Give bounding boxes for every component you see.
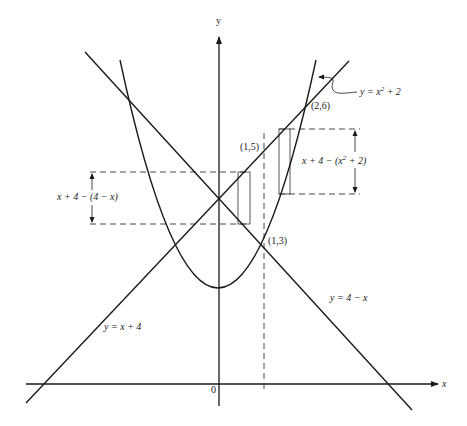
line-decreasing-label: y = 4 − x (329, 292, 368, 303)
parabola-label-suffix: + 2 (384, 86, 401, 97)
point-1-3-label: (1,3) (268, 235, 287, 247)
right-strip-label-base: x + 4 − (x (301, 155, 343, 167)
right-strip-label-suffix: + 2) (346, 155, 367, 167)
line-increasing-label: y = x + 4 (103, 321, 141, 332)
line-y-equals-x-plus-4 (26, 61, 349, 403)
point-1-5-label: (1,5) (240, 141, 259, 153)
origin-label: 0 (211, 384, 216, 395)
point-2-6-label: (2,6) (311, 100, 330, 112)
parabola-label-base: y = x (359, 86, 381, 97)
x-axis-label: x (441, 378, 447, 389)
y-axis-label: y (216, 15, 221, 26)
parabola-label: y = x2 + 2 (359, 85, 401, 97)
left-strip-height-label: x + 4 − (4 − x) (56, 191, 118, 203)
left-strip-rectangle (238, 172, 250, 224)
parabola-label-leader (319, 77, 357, 93)
right-strip-height-label: x + 4 − (x2 + 2) (301, 154, 367, 167)
parabola-curve (120, 60, 316, 288)
area-between-curves-diagram: y x 0 y = x2 + 2 y = x + 4 y = 4 − x (1,… (0, 0, 467, 426)
line-y-equals-4-minus-x (85, 52, 412, 410)
